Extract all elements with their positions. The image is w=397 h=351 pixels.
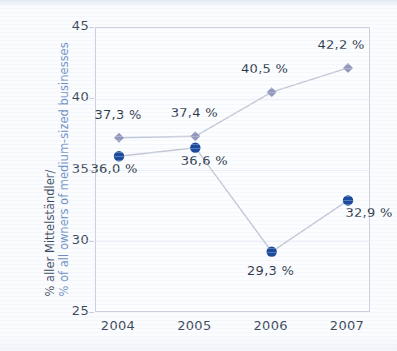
- data-point-label: 36,0 %: [90, 161, 137, 176]
- y-tick-label: 35: [55, 161, 89, 176]
- data-point-label: 37,4 %: [171, 105, 218, 120]
- x-tick-label: 2007: [330, 318, 364, 333]
- data-point-label: 29,3 %: [247, 263, 294, 278]
- y-tick-label: 45: [55, 18, 89, 33]
- y-tick-mark: [89, 170, 94, 171]
- y-tick-mark: [89, 98, 94, 99]
- top-edge-band: [0, 0, 397, 7]
- y-tick-label: 30: [55, 232, 89, 247]
- data-point-label: 36,6 %: [181, 153, 228, 168]
- y-tick-mark: [89, 241, 94, 242]
- x-tick-label: 2006: [254, 318, 288, 333]
- x-tick-label: 2005: [177, 318, 211, 333]
- x-tick-label: 2004: [101, 318, 135, 333]
- x-axis-ticks: 2004200520062007: [95, 316, 370, 338]
- data-point-label: 42,2 %: [317, 37, 364, 52]
- series-markers: [114, 63, 353, 257]
- y-tick-label: 40: [55, 89, 89, 104]
- y-tick-mark: [89, 312, 94, 313]
- data-point-label: 40,5 %: [241, 61, 288, 76]
- series-lines: [119, 68, 348, 252]
- y-axis-ticks: 2530354045: [53, 27, 89, 312]
- data-point-label: 32,9 %: [345, 205, 392, 220]
- chart-figure: % aller Mittelständler/ % of all owners …: [0, 0, 397, 351]
- y-tick-label: 25: [55, 303, 89, 318]
- y-tick-mark: [89, 27, 94, 28]
- data-point-label: 37,3 %: [94, 107, 141, 122]
